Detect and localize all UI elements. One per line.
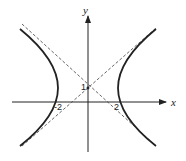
- hyperbola-left-branch: [20, 29, 58, 146]
- hyperbola-diagram: y x -2 2 1: [0, 0, 186, 161]
- tick-label-1: 1: [81, 82, 86, 92]
- center-point: [87, 87, 90, 90]
- tick-label-neg2: -2: [54, 102, 62, 112]
- x-axis-label: x: [170, 96, 176, 108]
- hyperbola-right-branch: [118, 29, 156, 146]
- y-axis-label: y: [82, 4, 88, 16]
- tick-label-2: 2: [114, 102, 119, 112]
